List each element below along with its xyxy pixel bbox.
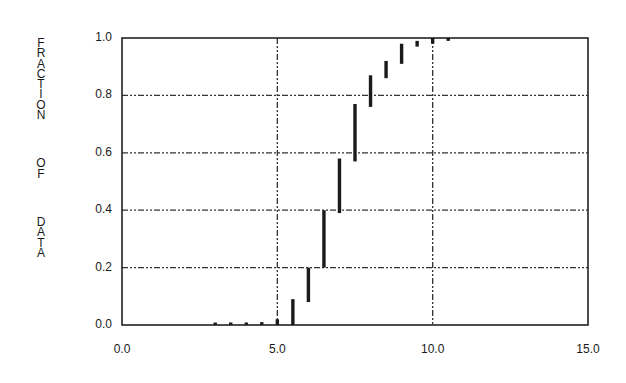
data-bar	[338, 159, 341, 214]
data-bar	[353, 104, 356, 161]
data-bar	[214, 323, 217, 326]
x-tick-label: 5.0	[252, 342, 302, 356]
data-bar	[400, 44, 403, 64]
data-bar	[322, 210, 325, 267]
data-bar	[291, 299, 294, 325]
data-bar	[260, 322, 263, 325]
data-bar	[415, 41, 418, 47]
data-bar	[369, 75, 372, 107]
y-tick-label: 0.8	[72, 87, 112, 101]
y-tick-label: 0.0	[72, 317, 112, 331]
data-bar	[276, 319, 279, 325]
chart: FRACTION OF DATA 0.00.20.40.60.81.00.05.…	[0, 0, 626, 383]
data-bar	[447, 38, 450, 41]
data-bar	[245, 323, 248, 326]
y-tick-label: 0.6	[72, 145, 112, 159]
x-tick-label: 15.0	[563, 342, 613, 356]
x-tick-label: 10.0	[408, 342, 458, 356]
y-tick-label: 0.4	[72, 202, 112, 216]
plot-frame	[122, 38, 588, 325]
data-bar	[384, 61, 387, 78]
y-tick-label: 0.2	[72, 260, 112, 274]
data-bar	[431, 38, 434, 44]
y-tick-label: 1.0	[72, 30, 112, 44]
data-bar	[229, 323, 232, 326]
x-tick-label: 0.0	[97, 342, 147, 356]
data-bar	[307, 268, 310, 302]
